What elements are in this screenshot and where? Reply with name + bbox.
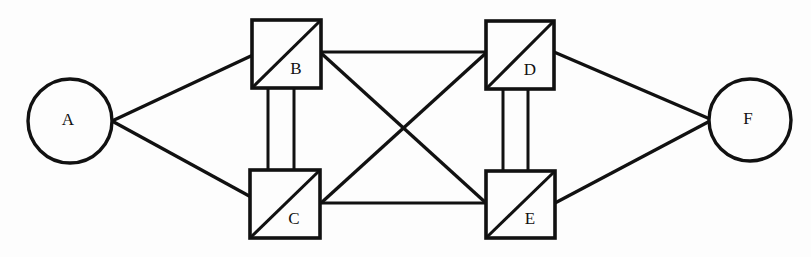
node-c-label: C	[288, 209, 299, 228]
node-e[interactable]: E	[486, 171, 555, 238]
node-a[interactable]: A	[28, 79, 112, 163]
node-c[interactable]: C	[250, 170, 320, 238]
edges-layer	[112, 52, 710, 203]
edge-a-c	[112, 121, 251, 197]
node-a-label: A	[62, 110, 75, 129]
node-e-label: E	[525, 209, 535, 228]
node-b-label: B	[290, 59, 301, 78]
edge-e-f	[555, 121, 710, 203]
diagram-canvas: ABCDEF	[0, 0, 811, 257]
node-b[interactable]: B	[252, 20, 321, 88]
node-f-label: F	[743, 109, 752, 128]
network-graph: ABCDEF	[0, 0, 811, 257]
node-d[interactable]: D	[486, 21, 554, 89]
edge-d-f	[554, 52, 710, 119]
edge-a-b	[112, 55, 253, 121]
node-f[interactable]: F	[709, 79, 791, 161]
node-d-label: D	[524, 60, 536, 79]
